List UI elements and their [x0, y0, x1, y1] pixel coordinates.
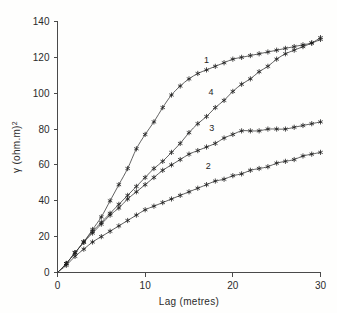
marker-asterisk-icon [274, 161, 279, 166]
marker-asterisk-icon [152, 204, 157, 209]
marker-asterisk-icon [248, 168, 253, 173]
series-markers-1 [64, 37, 323, 266]
marker-asterisk-icon [196, 71, 201, 76]
data-point-markers [64, 35, 323, 268]
marker-asterisk-icon [187, 76, 192, 81]
x-axis-title: Lag (metres) [159, 296, 219, 307]
y-axis-tick-labels: 020406080100120140 [33, 16, 50, 278]
marker-asterisk-icon [125, 166, 130, 171]
marker-asterisk-icon [231, 57, 236, 62]
marker-asterisk-icon [266, 164, 271, 169]
y-tick-label: 60 [38, 159, 50, 170]
y-tick-label: 40 [38, 195, 50, 206]
marker-asterisk-icon [196, 186, 201, 191]
marker-asterisk-icon [90, 239, 95, 244]
chart-plot-area: 020406080100120140 0102030 1234 Lag (met… [0, 0, 337, 313]
x-tick-label: 10 [140, 280, 152, 291]
y-tick-label: 140 [33, 16, 50, 27]
marker-asterisk-icon [134, 146, 139, 151]
marker-asterisk-icon [143, 207, 148, 212]
marker-asterisk-icon [169, 162, 174, 167]
marker-asterisk-icon [292, 157, 297, 162]
marker-asterisk-icon [301, 153, 306, 158]
marker-asterisk-icon [274, 57, 279, 62]
series-label-4: 4 [208, 87, 213, 97]
marker-asterisk-icon [178, 193, 183, 198]
x-tick-label: 20 [227, 280, 239, 291]
series-label-3: 3 [209, 123, 214, 133]
marker-asterisk-icon [160, 200, 165, 205]
marker-asterisk-icon [257, 69, 262, 74]
marker-asterisk-icon [239, 82, 244, 87]
series-line-3 [58, 122, 321, 273]
series-markers-3 [64, 119, 323, 266]
axes [58, 22, 321, 273]
marker-asterisk-icon [292, 48, 297, 53]
x-axis-ticks [58, 273, 321, 277]
variogram-figure: 020406080100120140 0102030 1234 Lag (met… [0, 0, 337, 313]
marker-asterisk-icon [134, 189, 139, 194]
marker-asterisk-icon [108, 229, 113, 234]
marker-asterisk-icon [204, 144, 209, 149]
marker-asterisk-icon [204, 182, 209, 187]
marker-asterisk-icon [117, 223, 122, 228]
series-markers-2 [64, 150, 323, 268]
series-markers-4 [64, 35, 323, 266]
marker-asterisk-icon [99, 234, 104, 239]
marker-asterisk-icon [213, 64, 218, 69]
y-tick-label: 120 [33, 52, 50, 63]
marker-asterisk-icon [125, 218, 130, 223]
y-tick-label: 0 [44, 267, 50, 278]
x-axis-tick-labels: 0102030 [55, 280, 327, 291]
marker-asterisk-icon [169, 196, 174, 201]
series-label-2: 2 [206, 161, 211, 171]
marker-asterisk-icon [178, 157, 183, 162]
marker-asterisk-icon [222, 60, 227, 65]
y-tick-label: 20 [38, 231, 50, 242]
x-tick-label: 0 [55, 280, 61, 291]
axis-titles: Lag (metres)γ (ohm.m)2 [11, 121, 219, 307]
marker-asterisk-icon [143, 182, 148, 187]
axis-spines [58, 22, 321, 273]
marker-asterisk-icon [196, 148, 201, 153]
marker-asterisk-icon [204, 67, 209, 72]
marker-asterisk-icon [117, 182, 122, 187]
marker-asterisk-icon [187, 152, 192, 157]
marker-asterisk-icon [231, 132, 236, 137]
series-label-1: 1 [204, 55, 209, 65]
marker-asterisk-icon [134, 213, 139, 218]
y-axis-ticks [54, 22, 58, 273]
marker-asterisk-icon [222, 135, 227, 140]
marker-asterisk-icon [318, 35, 323, 40]
y-axis-title: γ (ohm.m)2 [11, 121, 22, 173]
y-tick-label: 100 [33, 88, 50, 99]
marker-asterisk-icon [108, 198, 113, 203]
marker-asterisk-icon [283, 51, 288, 56]
marker-asterisk-icon [160, 168, 165, 173]
series-line-2 [58, 152, 321, 272]
marker-asterisk-icon [248, 76, 253, 81]
x-tick-label: 30 [315, 280, 327, 291]
series-inline-labels: 1234 [204, 55, 214, 171]
marker-asterisk-icon [266, 64, 271, 69]
y-tick-label: 80 [38, 124, 50, 135]
marker-asterisk-icon [187, 189, 192, 194]
marker-asterisk-icon [213, 141, 218, 146]
marker-asterisk-icon [309, 40, 314, 45]
